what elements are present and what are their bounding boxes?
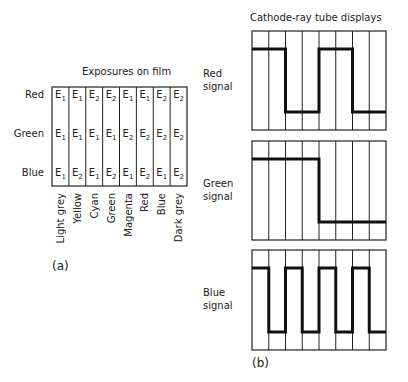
signal-label-blue: Bluesignal [203,286,233,312]
panel-b-label: (b) [252,356,269,370]
signal-label-red: Redsignal [203,67,233,93]
signal-label-green: Greensignal [203,177,233,203]
